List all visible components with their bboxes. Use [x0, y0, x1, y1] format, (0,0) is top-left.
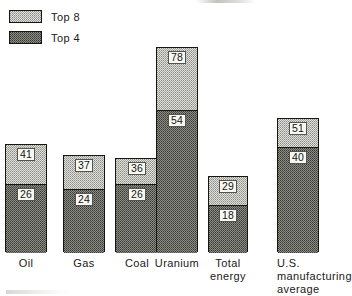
bar-segment-coal-top8: 36 [116, 159, 158, 185]
bar-gas: 37 24 [63, 155, 105, 252]
bar-segment-us-manufacturing-average-top8: 51 [278, 119, 318, 148]
bar-value-coal-top8: 36 [128, 162, 146, 175]
bar-segment-us-manufacturing-average-top4: 40 [278, 148, 318, 253]
bar-group-oil: 41 26 Oil [5, 144, 47, 252]
bar-group-gas: 37 24 Gas [63, 155, 105, 252]
bar-coal: 36 26 [115, 158, 159, 253]
category-label-total-energy: Total energy [210, 257, 246, 283]
bar-value-uranium-top4: 54 [168, 114, 186, 127]
bar-segment-coal-top4: 26 [116, 185, 158, 253]
scan-artifact-top [196, 0, 256, 3]
bar-uranium: 78 54 [156, 47, 198, 252]
bar-value-us-manufacturing-average-top8: 51 [289, 122, 307, 135]
bar-value-coal-top4: 26 [128, 188, 146, 201]
bar-group-total-energy: 29 18 Total energy [208, 176, 248, 252]
category-label-gas: Gas [73, 257, 94, 270]
bar-value-us-manufacturing-average-top4: 40 [289, 151, 307, 164]
bar-segment-oil-top8: 41 [6, 145, 46, 184]
bar-value-gas-top4: 24 [75, 193, 93, 206]
category-label-uranium: Uranium [155, 257, 199, 270]
bar-segment-uranium-top4: 54 [157, 111, 197, 253]
bar-group-uranium: 78 54 Uranium [156, 47, 198, 252]
bar-value-oil-top8: 41 [17, 148, 35, 161]
scan-artifact-bottom-left [6, 290, 70, 294]
bar-group-us-manufacturing-average: 51 40 U.S. manufacturing average [277, 118, 319, 252]
bar-segment-gas-top8: 37 [64, 156, 104, 190]
bar-group-coal: 36 26 Coal [115, 158, 159, 253]
bar-value-oil-top4: 26 [17, 188, 35, 201]
bar-segment-total-energy-top4: 18 [209, 206, 247, 253]
bar-value-total-energy-top4: 18 [219, 209, 237, 222]
bar-segment-total-energy-top8: 29 [209, 177, 247, 206]
bar-value-gas-top8: 37 [75, 159, 93, 172]
bar-oil: 41 26 [5, 144, 47, 252]
bar-segment-gas-top4: 24 [64, 190, 104, 253]
bar-value-uranium-top8: 78 [168, 51, 186, 64]
category-label-oil: Oil [19, 257, 34, 270]
bar-segment-oil-top4: 26 [6, 185, 46, 253]
bar-total-energy: 29 18 [208, 176, 248, 252]
bar-us-manufacturing-average: 51 40 [277, 118, 319, 252]
bar-value-total-energy-top8: 29 [219, 180, 237, 193]
category-label-coal: Coal [125, 257, 149, 270]
bar-segment-uranium-top8: 78 [157, 48, 197, 111]
category-label-us-manufacturing-average: U.S. manufacturing average [277, 257, 352, 296]
